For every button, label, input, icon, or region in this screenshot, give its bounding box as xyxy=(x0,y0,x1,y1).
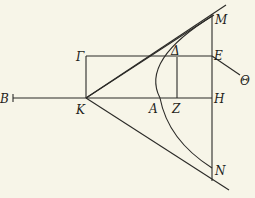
label-theta: Θ xyxy=(240,74,250,88)
geometry-diagram: B K Γ Δ A Z E H M N Θ xyxy=(0,0,255,198)
parabola-curve xyxy=(156,15,214,168)
label-k: K xyxy=(75,103,86,117)
label-m: M xyxy=(214,13,228,27)
label-z: Z xyxy=(171,102,181,116)
label-h: H xyxy=(213,92,225,106)
label-delta: Δ xyxy=(170,44,180,58)
label-a: A xyxy=(148,102,158,116)
label-n: N xyxy=(214,164,226,178)
label-e: E xyxy=(213,49,223,63)
label-gamma: Γ xyxy=(75,50,85,64)
label-b: B xyxy=(0,92,9,106)
